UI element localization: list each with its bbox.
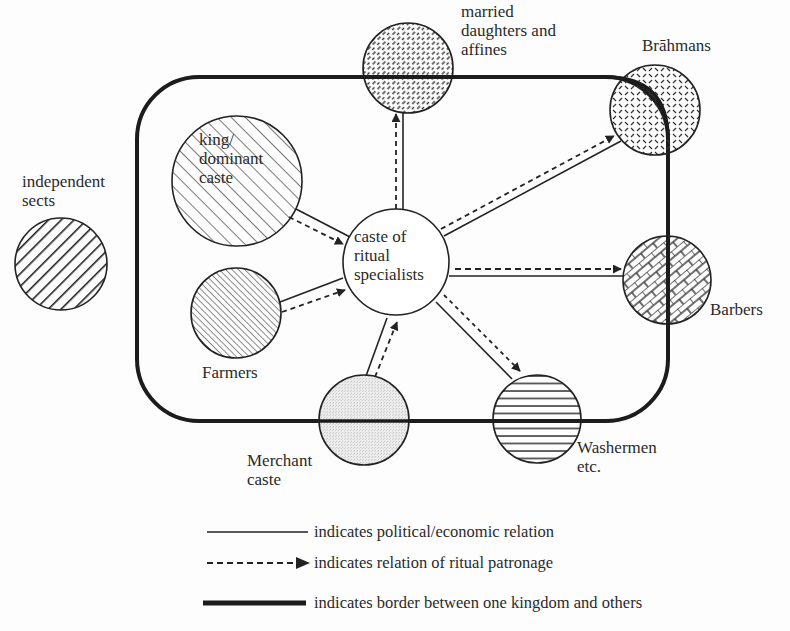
label-king-line3: caste (199, 168, 263, 187)
label-washermen: Washermen etc. (577, 438, 657, 476)
label-center-line1: caste of (354, 227, 424, 246)
label-center-line2: ritual (354, 246, 424, 265)
node-washermen (493, 375, 581, 463)
label-ritual-specialists: caste of ritual specialists (354, 227, 424, 284)
legend-ritual-text: indicates relation of ritual patronage (314, 554, 553, 572)
label-king-line2: dominant (199, 149, 263, 168)
label-washermen-line2: etc. (577, 457, 657, 476)
node-farmers (191, 268, 281, 358)
label-sects-line1: independent (22, 172, 105, 191)
edge-merchant-center (366, 318, 397, 377)
label-married-line3: affines (461, 40, 556, 59)
edge-king-center (289, 209, 350, 244)
label-farmers: Farmers (202, 363, 258, 382)
label-merchant: Merchant caste (247, 451, 312, 489)
label-married-line2: daughters and (461, 21, 556, 40)
label-married-line1: married (461, 2, 556, 21)
node-independent-sects (15, 218, 107, 310)
label-merchant-line2: caste (247, 470, 312, 489)
edge-center-washermen (436, 295, 520, 379)
label-merchant-line1: Merchant (247, 451, 312, 470)
edge-center-brahmans (441, 136, 621, 236)
edge-center-married (396, 112, 403, 209)
legend-border-text: indicates border between one kingdom and… (314, 594, 642, 612)
legend-political-text: indicates political/economic relation (314, 523, 554, 541)
label-king: king/ dominant caste (199, 130, 263, 187)
label-center-line3: specialists (354, 265, 424, 284)
label-barbers: Barbers (710, 300, 763, 319)
label-brahmans: Brāhmans (642, 36, 711, 55)
node-married-daughters (363, 23, 453, 113)
legend-ritual-arrowhead (296, 557, 310, 569)
label-married: married daughters and affines (461, 2, 556, 59)
label-independent-sects: independent sects (22, 172, 105, 210)
edge-farmers-center (280, 278, 345, 312)
label-sects-line2: sects (22, 191, 105, 210)
label-washermen-line1: Washermen (577, 438, 657, 457)
edge-center-barbers (449, 269, 623, 276)
label-king-line1: king/ (199, 130, 263, 149)
